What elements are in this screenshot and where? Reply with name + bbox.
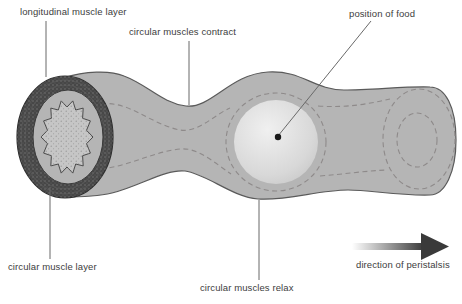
- muscle-cross-section: [17, 76, 113, 198]
- direction-arrow-icon: [352, 233, 449, 260]
- label-circular-muscles-relax: circular muscles relax: [200, 282, 294, 293]
- food-position-dot: [275, 134, 281, 140]
- label-position-of-food: position of food: [349, 8, 415, 19]
- peristalsis-diagram: longitudinal muscle layer circular muscl…: [0, 0, 462, 304]
- label-direction-of-peristalsis: direction of peristalsis: [356, 259, 450, 270]
- food-bolus: [234, 100, 318, 184]
- label-circular-muscle-layer: circular muscle layer: [8, 261, 97, 272]
- label-longitudinal-muscle-layer: longitudinal muscle layer: [20, 6, 127, 17]
- label-circular-muscles-contract: circular muscles contract: [129, 26, 236, 37]
